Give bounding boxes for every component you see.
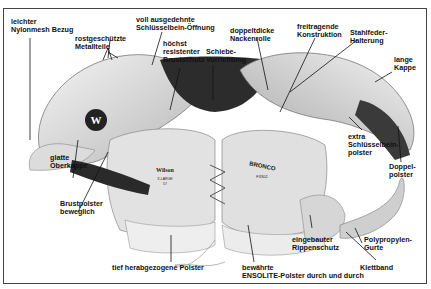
label-klettband: Klettband bbox=[360, 264, 393, 272]
label-schluesselbein-oeffnung: voll ausgedehnte Schlüsselbein-Öffnung bbox=[136, 16, 215, 32]
label-doppelpolster: Doppel- polster bbox=[389, 163, 416, 179]
label-rippenschutz: eingebauter Rippenschutz bbox=[292, 236, 339, 252]
svg-text:X-LARGE: X-LARGE bbox=[157, 177, 173, 181]
svg-text:W: W bbox=[91, 114, 102, 126]
label-nackenrolle: doppeltdicke Nackenrolle bbox=[230, 27, 274, 43]
label-ensolite: bewährte ENSOLITE-Polster durch und durc… bbox=[242, 264, 364, 280]
polypropylene-strap bbox=[340, 178, 404, 238]
label-lange-kappe: lange Kappe bbox=[394, 56, 416, 72]
svg-text:F3302: F3302 bbox=[256, 174, 268, 179]
label-brustpolster: Brustpolster beweglich bbox=[60, 200, 103, 216]
label-metallteile: rostgeschützte Metallteile bbox=[75, 35, 126, 51]
label-polypropylen: Polypropylen- Gurte bbox=[364, 236, 412, 252]
wilson-pad-text: Wilson bbox=[156, 167, 175, 173]
label-freitragend: freitragende Konstruktion bbox=[297, 23, 342, 39]
label-schiebe: Schiebe- Vorrichtung bbox=[206, 48, 246, 64]
label-extra-polster: extra Schlüsselbein- polster bbox=[348, 133, 399, 157]
label-brustschutz: höchst resistenter Brustschutz bbox=[163, 40, 205, 64]
label-nylonmesh: leichter Nylonmesh Bezug bbox=[11, 18, 73, 34]
svg-text:57: 57 bbox=[163, 182, 167, 186]
label-stahlfeder: Stahlfeder- Halterung bbox=[350, 29, 388, 45]
label-oberkappe: glatte Oberkappe bbox=[50, 154, 88, 170]
label-tief-polster: tief herabgezogene Polster bbox=[112, 264, 204, 272]
rib-protector bbox=[300, 195, 345, 240]
